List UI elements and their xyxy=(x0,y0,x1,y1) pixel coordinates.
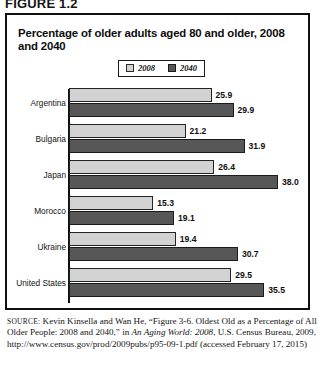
bar-row-morocco-2040: 19.1 xyxy=(69,211,195,225)
bar-row-ukraine-2040: 30.7 xyxy=(69,247,259,261)
bar-value-bulgaria-2008: 21.2 xyxy=(190,126,207,136)
legend-label-2008: 2008 xyxy=(138,63,155,73)
legend-entry-2008: 2008 xyxy=(126,63,155,73)
category-label-ukraine: Ukraine xyxy=(0,242,66,252)
source-note-publication-title: An Aging World: 2008 xyxy=(132,327,214,337)
figure-number-label: FIGURE 1.2 xyxy=(5,0,78,11)
bar-group-argentina: Argentina 25.9 29.9 xyxy=(7,87,308,123)
bar-ukraine-2008 xyxy=(69,232,176,246)
source-note: SOURCE: Kevin Kinsella and Wan He, “Figu… xyxy=(7,316,317,350)
category-label-bulgaria: Bulgaria xyxy=(0,134,66,144)
category-label-japan: Japan xyxy=(0,170,66,180)
bar-morocco-2040 xyxy=(69,211,174,225)
bar-japan-2040 xyxy=(69,175,278,189)
bar-group-ukraine: Ukraine 19.4 30.7 xyxy=(7,231,308,267)
bar-united-states-2040 xyxy=(69,283,264,297)
bar-value-morocco-2040: 19.1 xyxy=(178,213,195,223)
bar-row-japan-2040: 38.0 xyxy=(69,175,299,189)
chart-frame: Percentage of older adults aged 80 and o… xyxy=(5,13,310,310)
category-label-united-states: United States xyxy=(0,278,66,288)
bar-row-argentina-2040: 29.9 xyxy=(69,103,254,117)
bar-row-ukraine-2008: 19.4 xyxy=(69,232,196,246)
bar-row-bulgaria-2008: 21.2 xyxy=(69,124,206,138)
bar-group-japan: Japan 26.4 38.0 xyxy=(7,159,308,195)
legend-label-2040: 2040 xyxy=(180,63,197,73)
bar-united-states-2008 xyxy=(69,268,231,282)
bar-value-united-states-2040: 35.5 xyxy=(268,285,285,295)
bar-value-argentina-2008: 25.9 xyxy=(216,90,233,100)
bar-group-morocco: Morocco 15.3 19.1 xyxy=(7,195,308,231)
legend-entry-2040: 2040 xyxy=(168,63,197,73)
bar-value-bulgaria-2040: 31.9 xyxy=(249,141,266,151)
bar-value-japan-2040: 38.0 xyxy=(282,177,299,187)
bar-value-japan-2008: 26.4 xyxy=(218,162,235,172)
chart-legend: 2008 2040 xyxy=(118,60,205,77)
bar-group-united-states: United States 29.5 35.5 xyxy=(7,267,308,303)
bar-row-japan-2008: 26.4 xyxy=(69,160,235,174)
bar-row-morocco-2008: 15.3 xyxy=(69,196,174,210)
source-note-label: SOURCE: xyxy=(7,317,40,326)
bar-value-morocco-2008: 15.3 xyxy=(157,198,174,208)
bar-argentina-2008 xyxy=(69,88,212,102)
bar-value-ukraine-2040: 30.7 xyxy=(242,249,259,259)
bar-japan-2008 xyxy=(69,160,214,174)
bar-ukraine-2040 xyxy=(69,247,238,261)
bar-value-united-states-2008: 29.5 xyxy=(235,270,252,280)
bar-bulgaria-2040 xyxy=(69,139,245,153)
bar-value-ukraine-2008: 19.4 xyxy=(180,234,197,244)
plot-area: Argentina 25.9 29.9 Bulgaria 21.2 31.9 J… xyxy=(7,87,308,307)
legend-swatch-2008-icon xyxy=(126,64,134,72)
category-label-morocco: Morocco xyxy=(0,206,66,216)
bar-row-united-states-2008: 29.5 xyxy=(69,268,252,282)
bar-row-bulgaria-2040: 31.9 xyxy=(69,139,265,153)
bar-morocco-2008 xyxy=(69,196,153,210)
bar-row-argentina-2008: 25.9 xyxy=(69,88,232,102)
bar-value-argentina-2040: 29.9 xyxy=(238,105,255,115)
bar-row-united-states-2040: 35.5 xyxy=(69,283,285,297)
chart-title: Percentage of older adults aged 80 and o… xyxy=(18,27,304,53)
legend-swatch-2040-icon xyxy=(168,64,176,72)
bar-group-bulgaria: Bulgaria 21.2 31.9 xyxy=(7,123,308,159)
bar-bulgaria-2008 xyxy=(69,124,186,138)
category-label-argentina: Argentina xyxy=(0,98,66,108)
bar-argentina-2040 xyxy=(69,103,234,117)
